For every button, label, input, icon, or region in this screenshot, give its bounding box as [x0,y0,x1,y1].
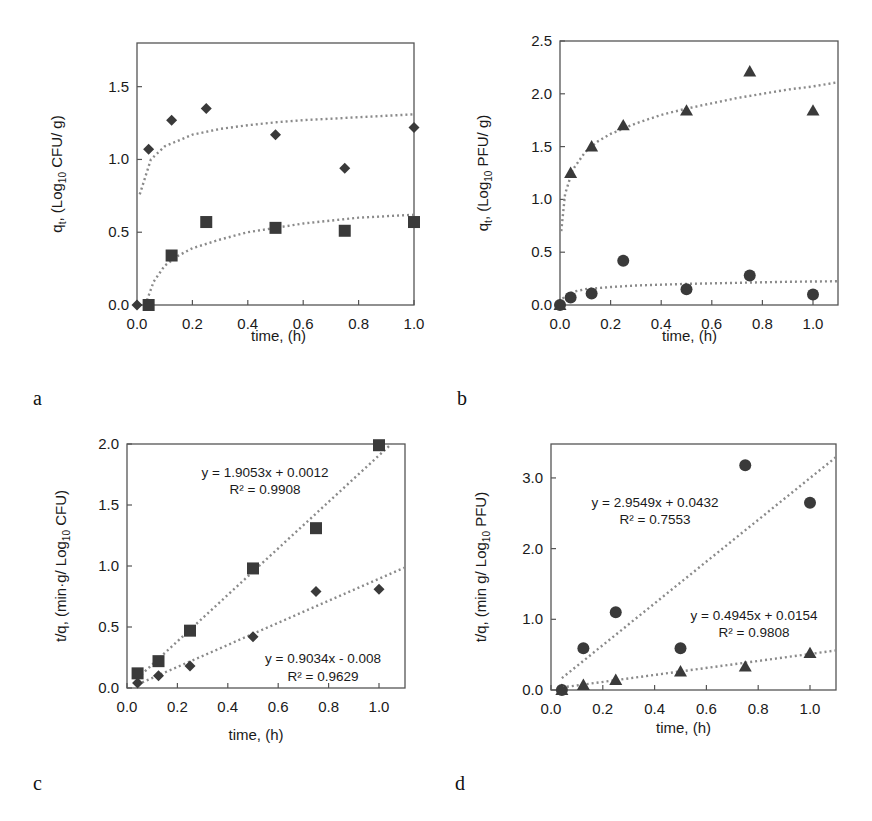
x-tick-label: 1.0 [404,315,425,332]
panel-letter: d [455,772,465,794]
y-tick-label: 0.0 [108,296,129,313]
triangle-marker [609,674,622,685]
circle-marker [675,642,687,654]
y-tick-label: 1.0 [531,190,552,207]
r-squared-label: R² = 0.9629 [288,669,359,684]
chart-panel-a: 0.00.20.40.60.81.00.00.51.01.5time, (h)q… [33,43,424,409]
y-tick-label: 2.0 [98,435,119,452]
circle-marker [744,269,756,281]
trend-line [561,82,838,231]
x-axis-label: time, (h) [662,327,717,344]
triangle-marker [743,65,756,76]
x-tick-label: 0.4 [644,700,665,717]
y-tick-label: 0.5 [531,243,552,260]
y-tick-label: 0.5 [108,223,129,240]
circle-marker [565,292,577,304]
y-axis-label: t/q, (min g/ Log10 PFU) [472,492,492,642]
x-tick-label: 0.8 [348,315,369,332]
x-tick-label: 0.0 [117,698,138,715]
triangle-marker [585,140,598,151]
triangle-marker [739,660,752,671]
triangle-marker [807,104,820,115]
y-tick-label: 1.0 [108,150,129,167]
x-tick-label: 0.0 [541,700,562,717]
x-tick-label: 0.8 [752,315,773,332]
square-marker [270,222,282,234]
y-axis-label: qt, (Log10 PFU/ g) [474,115,494,231]
x-axis-label: time, (h) [656,719,711,736]
chart-panel-d: 0.00.20.40.60.81.00.01.02.03.0time, (h)t… [455,444,836,794]
figure-canvas: 0.00.20.40.60.81.00.00.51.01.5time, (h)q… [0,0,872,821]
diamond-marker [409,122,420,133]
plot-frame [560,41,838,305]
x-tick-label: 0.4 [217,698,238,715]
chart-panel-b: 0.00.20.40.60.81.00.00.51.01.52.02.5time… [457,32,838,409]
panel-letter: b [457,387,467,409]
square-marker [339,225,351,237]
x-tick-label: 0.2 [600,315,621,332]
trend-line [562,457,836,678]
regression-equation: y = 0.9034x - 0.008 [265,651,381,666]
square-marker [247,562,259,574]
circle-marker [586,287,598,299]
panel-letter: a [33,387,42,409]
y-tick-label: 3.0 [522,469,543,486]
circle-marker [610,606,622,618]
x-axis-label: time, (h) [228,726,283,743]
diamond-marker [201,103,212,114]
x-axis-label: time, (h) [251,327,306,344]
x-tick-label: 0.8 [318,698,339,715]
diamond-marker [166,115,177,126]
regression-equation: y = 2.9549x + 0.0432 [592,495,719,510]
regression-equation: y = 0.4945x + 0.0154 [691,608,818,623]
y-tick-label: 2.0 [531,85,552,102]
r-squared-label: R² = 0.9908 [230,482,301,497]
circle-marker [554,299,566,311]
x-tick-label: 1.0 [803,315,824,332]
r-squared-label: R² = 0.7553 [620,512,691,527]
trend-line [140,114,414,194]
r-squared-label: R² = 0.9808 [719,625,790,640]
circle-marker [681,283,693,295]
square-marker [153,655,165,667]
x-tick-label: 0.2 [167,698,188,715]
y-tick-label: 1.5 [531,138,552,155]
plot-frame [137,43,414,305]
diamond-marker [132,300,143,311]
square-marker [132,667,144,679]
diamond-marker [143,144,154,155]
trend-line [138,568,405,685]
square-marker [373,439,385,451]
x-tick-label: 0.0 [127,315,148,332]
x-tick-label: 0.0 [550,315,571,332]
y-tick-label: 1.0 [98,557,119,574]
square-marker [166,250,178,262]
square-marker [143,299,155,311]
diamond-marker [185,661,196,672]
x-tick-label: 1.0 [800,700,821,717]
circle-marker [807,288,819,300]
diamond-marker [248,631,259,642]
y-tick-label: 2.0 [522,540,543,557]
circle-marker [804,497,816,509]
y-tick-label: 1.5 [108,78,129,95]
triangle-marker [674,665,687,676]
square-marker [200,216,212,228]
square-marker [184,625,196,637]
y-tick-label: 0.0 [531,296,552,313]
y-tick-label: 1.5 [98,496,119,513]
triangle-marker [617,119,630,130]
circle-marker [617,255,629,267]
x-tick-label: 0.2 [592,700,613,717]
x-tick-label: 0.2 [182,315,203,332]
y-tick-label: 2.5 [531,32,552,49]
y-tick-label: 0.0 [522,681,543,698]
square-marker [408,216,420,228]
regression-equation: y = 1.9053x + 0.0012 [202,465,329,480]
x-tick-label: 0.6 [268,698,289,715]
x-tick-label: 1.0 [369,698,390,715]
y-tick-label: 0.0 [98,679,119,696]
diamond-marker [153,670,164,681]
x-tick-label: 0.8 [748,700,769,717]
x-tick-label: 0.6 [696,700,717,717]
